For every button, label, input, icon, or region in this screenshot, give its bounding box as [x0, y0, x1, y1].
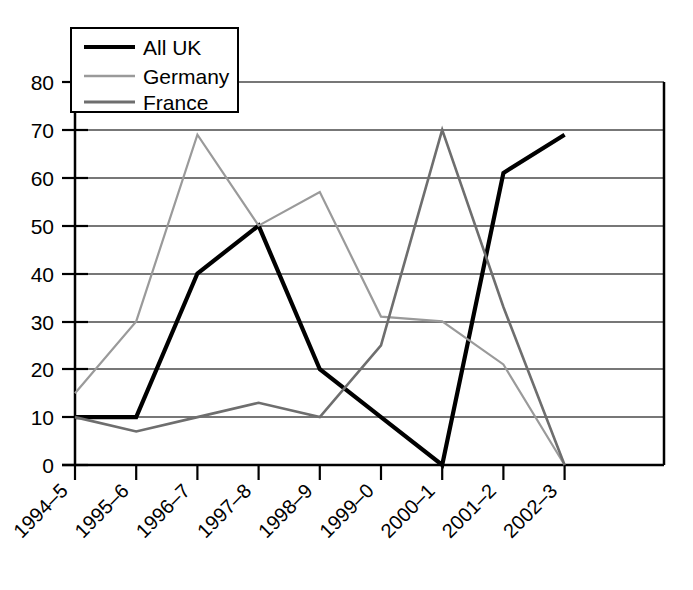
legend-label-germany: Germany [143, 65, 230, 88]
x-tick-label: 1998–9 [254, 479, 317, 542]
legend-label-france: France [143, 91, 208, 114]
x-tick-label: 1994–5 [9, 479, 72, 542]
x-tick-labels: 1994–51995–61996–71997–81998–91999–02000… [9, 479, 561, 542]
x-tick-marks [75, 465, 565, 480]
y-tick-labels: 80 70 60 50 40 30 20 10 0 [31, 71, 54, 477]
x-tick-label: 2002–3 [499, 479, 562, 542]
y-tick-label-60: 60 [31, 167, 54, 190]
x-tick-label: 1996–7 [131, 479, 194, 542]
x-tick-label: 1999–0 [315, 479, 378, 542]
line-chart: 80 70 60 50 40 30 20 10 0 1994–51995–619… [0, 0, 693, 590]
y-tick-label-70: 70 [31, 119, 54, 142]
y-tick-label-80: 80 [31, 71, 54, 94]
y-tick-label-0: 0 [42, 454, 54, 477]
y-tick-label-20: 20 [31, 358, 54, 381]
y-tick-label-40: 40 [31, 263, 54, 286]
x-tick-label: 2001–2 [437, 479, 500, 542]
y-tick-label-30: 30 [31, 311, 54, 334]
chart-canvas: 80 70 60 50 40 30 20 10 0 1994–51995–619… [0, 0, 693, 590]
legend-label-all-uk: All UK [143, 36, 201, 59]
x-tick-label: 1995–6 [70, 479, 133, 542]
legend: All UK Germany France [71, 28, 238, 114]
y-tick-label-50: 50 [31, 215, 54, 238]
x-tick-label: 2000–1 [376, 479, 439, 542]
x-tick-label: 1997–8 [193, 479, 256, 542]
y-tick-label-10: 10 [31, 406, 54, 429]
